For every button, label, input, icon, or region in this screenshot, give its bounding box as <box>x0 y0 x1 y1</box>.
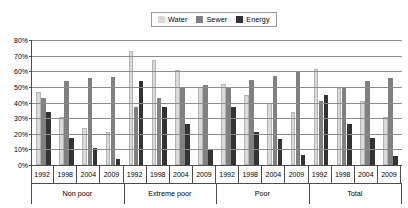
gridline <box>32 87 402 88</box>
bar-energy[interactable] <box>278 139 283 165</box>
y-axis-tick-label: 50% <box>14 83 28 90</box>
bar-energy[interactable] <box>139 81 144 165</box>
plot-wrapper: 0%10%20%30%40%50%60%70%80% 1992199820042… <box>0 40 408 208</box>
bar-energy[interactable] <box>347 124 352 165</box>
x-axis-year-label: 2009 <box>193 166 216 183</box>
x-axis-group-label: Non poor <box>31 183 124 204</box>
bar-sewer[interactable] <box>203 85 208 165</box>
bar-water[interactable] <box>129 51 134 165</box>
x-axis-year-label: 1992 <box>31 166 54 183</box>
y-axis-tick-label: 80% <box>14 37 28 44</box>
legend-swatch-sewer-icon <box>196 16 203 23</box>
x-axis-year-label: 2009 <box>285 166 308 183</box>
y-axis-tick-label: 10% <box>14 146 28 153</box>
x-axis-year-label: 2004 <box>170 166 193 183</box>
group-band-edge <box>31 183 32 204</box>
bar-energy[interactable] <box>185 124 190 165</box>
y-axis-tick-mark <box>29 87 32 88</box>
legend-item-energy[interactable]: Energy <box>236 16 269 24</box>
y-axis-tick-mark <box>29 56 32 57</box>
gridline <box>32 56 402 57</box>
group-band-edge <box>309 183 310 204</box>
legend-label: Energy <box>246 16 269 24</box>
gridline <box>32 71 402 72</box>
bar-energy[interactable] <box>324 95 329 165</box>
bar-sewer[interactable] <box>88 78 93 166</box>
x-axis-year-label: 1992 <box>216 166 239 183</box>
y-axis-tick-label: 20% <box>14 130 28 137</box>
bar-energy[interactable] <box>116 159 121 165</box>
bar-sewer[interactable] <box>342 88 347 165</box>
bar-energy[interactable] <box>370 138 375 165</box>
group-band-edge <box>124 183 125 204</box>
bar-sewer[interactable] <box>365 81 370 165</box>
x-axis-group-label: Poor <box>216 183 309 204</box>
year-band-edge <box>31 166 32 183</box>
bar-energy[interactable] <box>69 138 74 165</box>
group-band-edge <box>216 183 217 204</box>
bar-water[interactable] <box>221 84 226 165</box>
x-axis-group-label: Extreme poor <box>124 183 217 204</box>
group-band-edge <box>401 183 402 204</box>
legend-swatch-water-icon <box>158 16 165 23</box>
bar-sewer[interactable] <box>41 98 46 165</box>
legend-item-water[interactable]: Water <box>158 16 187 24</box>
bar-sewer[interactable] <box>226 88 231 165</box>
bar-sewer[interactable] <box>273 76 278 165</box>
legend-item-sewer[interactable]: Sewer <box>196 16 227 24</box>
bar-water[interactable] <box>337 88 342 165</box>
bar-sewer[interactable] <box>64 81 69 165</box>
x-axis-year-label: 1998 <box>147 166 170 183</box>
bar-water[interactable] <box>59 117 64 165</box>
bar-energy[interactable] <box>93 148 98 165</box>
x-axis-year-label: 1998 <box>239 166 262 183</box>
bar-energy[interactable] <box>301 155 306 165</box>
bar-water[interactable] <box>383 117 388 165</box>
x-axis-year-label: 1992 <box>309 166 332 183</box>
plot-area <box>31 40 402 166</box>
y-axis-tick-mark <box>29 118 32 119</box>
bar-water[interactable] <box>314 69 319 165</box>
x-axis-year-label: 2004 <box>355 166 378 183</box>
bar-energy[interactable] <box>162 107 167 165</box>
bar-energy[interactable] <box>231 107 236 165</box>
bar-energy[interactable] <box>46 112 51 165</box>
y-axis-tick-label: 40% <box>14 99 28 106</box>
bar-water[interactable] <box>244 95 249 165</box>
bar-sewer[interactable] <box>157 98 162 165</box>
x-axis-year-label: 1998 <box>54 166 77 183</box>
bar-sewer[interactable] <box>134 107 139 165</box>
group-label-band: Non poorExtreme poorPoorTotal <box>31 183 401 204</box>
y-axis-tick-mark <box>29 134 32 135</box>
y-axis-tick-mark <box>29 71 32 72</box>
x-axis-year-label: 1992 <box>124 166 147 183</box>
gridline <box>32 103 402 104</box>
bar-sewer[interactable] <box>388 78 393 165</box>
legend-label: Sewer <box>206 16 227 24</box>
gridline <box>32 149 402 150</box>
legend-swatch-energy-icon <box>236 16 243 23</box>
x-axis-year-label: 2004 <box>262 166 285 183</box>
bar-energy[interactable] <box>208 149 213 165</box>
bar-sewer[interactable] <box>249 80 254 165</box>
bar-energy[interactable] <box>393 156 398 165</box>
chart-legend: WaterSewerEnergy <box>151 12 277 27</box>
x-axis-year-label: 2004 <box>77 166 100 183</box>
bar-water[interactable] <box>291 112 296 165</box>
bar-water[interactable] <box>198 87 203 165</box>
x-axis-year-label: 1998 <box>332 166 355 183</box>
legend-label: Water <box>168 16 187 24</box>
year-label-band: 1992199820042009199219982004200919921998… <box>31 166 401 183</box>
bar-chart: WaterSewerEnergy 0%10%20%30%40%50%60%70%… <box>0 0 408 208</box>
y-axis-tick-label: 30% <box>14 115 28 122</box>
gridline <box>32 134 402 135</box>
y-axis-tick-mark <box>29 103 32 104</box>
y-axis-tick-label: 0% <box>18 162 28 169</box>
y-axis-tick-mark <box>29 149 32 150</box>
y-axis-tick-mark <box>29 40 32 41</box>
gridline <box>32 118 402 119</box>
y-axis-tick-label: 60% <box>14 68 28 75</box>
bar-sewer[interactable] <box>111 77 116 165</box>
gridline <box>32 40 402 41</box>
bar-sewer[interactable] <box>180 87 185 165</box>
